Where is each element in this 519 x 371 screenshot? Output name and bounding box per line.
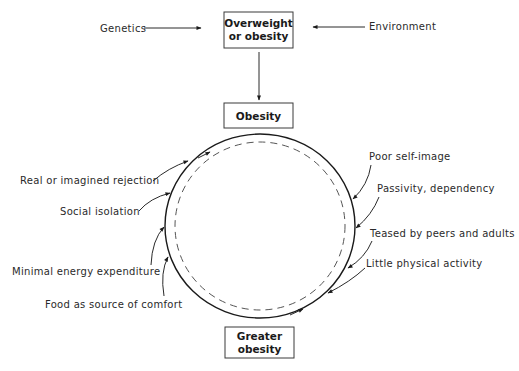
left-factor-3: Minimal energy expenditure (12, 266, 160, 277)
overweight-box: Overweight or obesity (224, 12, 293, 48)
greater-obesity-line2: obesity (238, 343, 282, 355)
left-factor-1: Real or imagined rejection (20, 175, 159, 186)
right-factor-1-arrow (353, 165, 371, 199)
right-factor-2-arrow (356, 197, 379, 228)
inner-dashed-circle (175, 142, 345, 310)
greater-obesity-line1: Greater (237, 330, 283, 342)
right-factor-2: Passivity, dependency (377, 183, 495, 194)
overweight-box-line1: Overweight (224, 17, 293, 29)
greater-obesity-box: Greater obesity (225, 327, 294, 358)
left-factor-4-arrow (163, 257, 168, 296)
obesity-box: Obesity (224, 103, 293, 128)
right-factor-3: Teased by peers and adults (369, 228, 515, 239)
left-factor-2-arrow (139, 193, 170, 211)
right-factor-4: Little physical activity (366, 258, 483, 269)
left-factor-2: Social isolation (60, 206, 140, 217)
cycle-circle (165, 134, 355, 318)
obesity-box-label: Obesity (236, 110, 281, 122)
left-factor-3-arrow (151, 227, 164, 265)
environment-label: Environment (369, 21, 436, 32)
overweight-box-line2: or obesity (229, 30, 289, 42)
left-factor-4: Food as source of comfort (45, 299, 182, 310)
obesity-cycle-diagram: Genetics Environment Overweight or obesi… (0, 0, 519, 371)
genetics-label: Genetics (100, 23, 146, 34)
right-factor-1: Poor self-image (369, 151, 451, 162)
right-factor-4-arrow (328, 268, 365, 293)
